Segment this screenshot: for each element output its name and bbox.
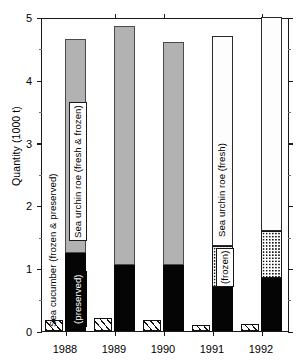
y-tick-label-3: 3 [2,139,32,150]
x-tick-top-2 [164,14,165,19]
x-tick-label-1991: 1991 [189,343,235,355]
x-tick-top-1 [115,14,116,19]
x-tick-sep-0 [66,331,67,336]
bar-sea-urchin-1990 [163,42,184,331]
annotation-frozen: (frozen) [216,248,234,287]
x-tick-sep-4 [262,331,263,336]
bar-sea-cucumber-1989 [94,318,112,331]
bar-chart: Quantity (1000 t) 0 1 2 3 4 5 1988 1989 … [0,0,300,363]
y-tick-major-right-1 [288,269,293,270]
y-tick-minor-right-0-5 [288,300,291,301]
x-tick-label-1992: 1992 [238,343,284,355]
annotation-roe-fresh: Sea urchin roe (fresh) [217,143,227,237]
annotation-roe-fresh-frozen: Sea urchin roe (fresh & frozen) [69,102,87,241]
y-tick-major-3 [37,143,42,144]
bar-sea-cucumber-1991 [192,325,210,331]
y-tick-major-right-2 [288,206,293,207]
y-tick-major-right-0 [288,332,293,333]
y-tick-label-0: 0 [2,327,32,338]
y-tick-major-2 [37,206,42,207]
y-tick-major-5 [37,18,42,19]
y-tick-major-4 [37,81,42,82]
y-tick-major-1 [37,269,42,270]
y-tick-minor-right-1-5 [288,238,291,239]
annotation-preserved: (preserved) [69,271,87,327]
segment-fresh-1992 [261,17,282,231]
y-tick-label-4: 4 [2,76,32,87]
segment-fresh-frozen-1989 [114,26,135,265]
annotation-sea-cucumber: Sea cucumber (frozen & preserved) [48,173,58,327]
segment-preserved-1989 [114,265,135,331]
y-tick-minor-0-5 [39,300,42,301]
segment-preserved-1991 [212,287,233,331]
bar-sea-urchin-1992 [261,17,282,331]
y-tick-minor-2-5 [39,175,42,176]
bar-sea-urchin-1989 [114,26,135,331]
plot-area: Sea cucumber (frozen & preserved) (prese… [41,18,289,332]
y-tick-major-right-4 [288,81,293,82]
y-tick-label-1: 1 [2,264,32,275]
y-tick-major-right-3 [288,143,293,144]
segment-fresh-frozen-1990 [163,42,184,265]
x-tick-label-1988: 1988 [42,343,88,355]
y-tick-minor-right-3-5 [288,112,291,113]
x-tick-sep-2 [164,331,165,336]
y-tick-minor-right-4-5 [288,49,291,50]
y-tick-major-right-5 [288,18,293,19]
y-tick-minor-4-5 [39,49,42,50]
y-tick-label-2: 2 [2,201,32,212]
segment-preserved-1990 [163,265,184,331]
y-tick-minor-right-2-5 [288,175,291,176]
x-tick-sep-1 [115,331,116,336]
x-tick-sep-3 [213,331,214,336]
x-tick-label-1989: 1989 [91,343,137,355]
y-tick-minor-3-5 [39,112,42,113]
y-tick-label-5: 5 [2,13,32,24]
x-tick-label-1990: 1990 [140,343,186,355]
segment-frozen-1992 [261,231,282,278]
y-tick-minor-1-5 [39,238,42,239]
y-tick-major-0 [37,332,42,333]
segment-preserved-1992 [261,278,282,331]
bar-sea-cucumber-1990 [143,320,161,331]
bar-sea-cucumber-1992 [241,324,259,332]
